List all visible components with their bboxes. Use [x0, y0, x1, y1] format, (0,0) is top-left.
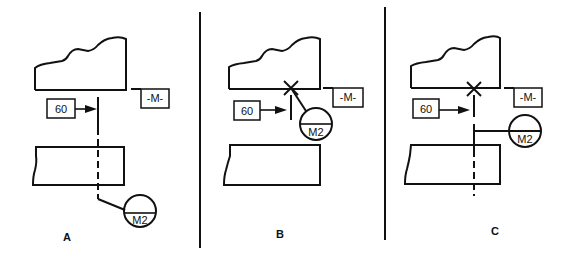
- lower-part-outline: [224, 145, 320, 185]
- datum-target-diagram: -M- 60 M2 A -M- 60 M2 B: [0, 0, 571, 259]
- lower-part-outline: [33, 147, 124, 185]
- arrowhead-icon: [458, 106, 470, 114]
- lower-part-outline: [405, 145, 500, 184]
- panel-c: -M- 60 M2 C: [405, 36, 542, 237]
- symbol-text: M2: [132, 214, 147, 226]
- feature-text: 60: [55, 103, 67, 115]
- symbol-leader: [291, 88, 306, 111]
- panel-a: -M- 60 M2 A: [33, 37, 169, 243]
- panel-label: B: [276, 228, 284, 240]
- feature-text: 60: [241, 105, 253, 117]
- datum-text: -M-: [147, 92, 164, 104]
- datum-text: -M-: [340, 91, 357, 103]
- upper-part-outline: [411, 36, 500, 88]
- symbol-text: M2: [308, 126, 323, 138]
- feature-text: 60: [420, 103, 432, 115]
- datum-text: -M-: [520, 91, 537, 103]
- panel-label: A: [63, 231, 71, 243]
- symbol-leader: [98, 199, 125, 210]
- arrowhead-icon: [85, 105, 97, 113]
- upper-part-outline: [229, 37, 320, 89]
- symbol-text: M2: [517, 133, 532, 145]
- arrowhead-icon: [275, 106, 287, 114]
- panel-b: -M- 60 M2 B: [224, 37, 363, 240]
- upper-part-outline: [35, 37, 126, 90]
- panel-label: C: [491, 225, 499, 237]
